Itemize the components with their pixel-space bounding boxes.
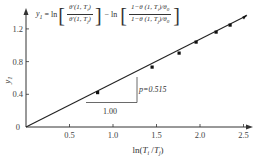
y-axis-label: y1	[2, 76, 13, 84]
eq-ln: ln	[51, 10, 57, 19]
y-tick-label: 0.4	[12, 89, 23, 99]
eq-fraction-1: θ′(1, Ti) θ′(1, Tj)	[67, 3, 93, 27]
data-point	[151, 66, 154, 69]
slope-run-label: 1.00	[103, 107, 117, 116]
eq-fraction-2: 1−θ (1, Ti)/θ0 1−θ (1, Tj)/θ0	[129, 3, 171, 27]
data-point	[96, 91, 99, 94]
bracket-open: [	[58, 6, 65, 24]
data-point	[215, 31, 218, 34]
y-tick-label: 0.8	[12, 57, 23, 67]
x-tick-label: 2.0	[195, 130, 206, 140]
x-axis-label: ln(Ti /Tj)	[132, 145, 163, 156]
y-tick-label: 1.2	[12, 24, 23, 34]
fit-line	[26, 16, 247, 128]
eq-equals: =	[45, 10, 50, 19]
data-point-arrow-icon	[242, 15, 247, 20]
data-point	[178, 52, 181, 55]
slope-triangle	[86, 77, 137, 103]
y-tick-label: 0	[16, 122, 20, 132]
data-point	[229, 24, 232, 27]
x-axis-arrow-icon	[246, 125, 253, 130]
bracket-close: ]	[173, 6, 180, 24]
x-tick-label: 1.0	[108, 130, 119, 140]
y-axis-arrow-icon	[24, 8, 29, 15]
slope-label: p=0.515	[138, 85, 166, 94]
x-tick-label: 1.5	[151, 130, 162, 140]
x-tick-label: 2.5	[238, 130, 249, 140]
bracket-open: [	[120, 6, 127, 24]
bracket-close: ]	[95, 6, 102, 24]
data-point	[195, 41, 198, 44]
x-tick-label: 0.5	[64, 130, 75, 140]
eq-minus-ln: − ln	[105, 10, 118, 19]
equation: y1 = ln [ θ′(1, Ti) θ′(1, Tj) ] − ln [ 1…	[36, 3, 181, 27]
eq-lhs: y1	[36, 9, 43, 22]
